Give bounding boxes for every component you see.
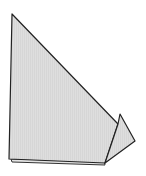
main-triangle-shape [9,14,118,163]
diagram-canvas [0,0,146,176]
